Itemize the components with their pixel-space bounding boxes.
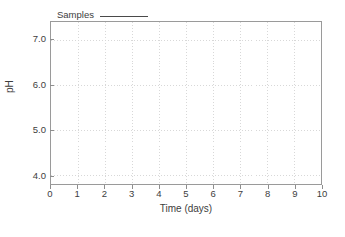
x-axis-tick-mark (186, 185, 187, 189)
x-axis-tick-mark (50, 185, 51, 189)
x-axis-tick-mark (322, 185, 323, 189)
x-axis-tick-label: 4 (156, 188, 161, 199)
y-axis-tick-label: 7.0 (33, 34, 46, 44)
x-axis-tick-label: 9 (292, 188, 297, 199)
x-axis-tick-mark (104, 185, 105, 189)
y-axis-tick-mark (50, 176, 54, 177)
plot-area (50, 21, 322, 185)
legend-line-swatch (100, 16, 148, 17)
y-axis-tick-label: 4.0 (33, 171, 46, 181)
x-axis-tick-labels: 012345678910 (50, 188, 322, 202)
x-axis-tick-mark (240, 185, 241, 189)
x-axis-tick-label: 7 (238, 188, 243, 199)
y-axis-tick-label: 5.0 (33, 125, 46, 135)
x-axis-title: Time (days) (50, 203, 322, 215)
x-axis-tick-label: 2 (102, 188, 107, 199)
legend-entry-label: Samples (57, 9, 94, 20)
x-axis-tick-mark (213, 185, 214, 189)
x-axis-tick-label: 0 (47, 188, 52, 199)
y-axis-tick-mark (50, 130, 54, 131)
x-axis-tick-label: 8 (265, 188, 270, 199)
gridlines (51, 22, 321, 184)
x-axis-tick-mark (295, 185, 296, 189)
y-axis-title: pH (4, 80, 16, 93)
y-axis-tick-label: 6.0 (33, 80, 46, 90)
x-axis-tick-label: 5 (183, 188, 188, 199)
x-axis-tick-mark (132, 185, 133, 189)
x-axis-tick-label: 3 (129, 188, 134, 199)
chart-figure: Samples 7.06.05.04.0 012345678910 Time (… (0, 0, 345, 237)
y-axis-tick-mark (50, 39, 54, 40)
x-axis-tick-mark (268, 185, 269, 189)
y-axis-tick-mark (50, 85, 54, 86)
chart-legend: Samples (57, 7, 148, 21)
x-axis-tick-label: 10 (317, 188, 328, 199)
x-axis-tick-label: 6 (211, 188, 216, 199)
x-axis-tick-label: 1 (75, 188, 80, 199)
y-axis-tick-labels: 7.06.05.04.0 (16, 21, 46, 185)
x-axis-tick-mark (159, 185, 160, 189)
x-axis-tick-mark (77, 185, 78, 189)
